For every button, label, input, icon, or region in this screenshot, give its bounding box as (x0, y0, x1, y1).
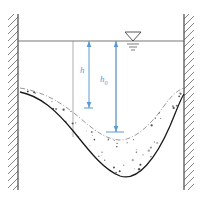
right-bank-wall (184, 14, 194, 190)
scour-cross-section-figure: h h0 (0, 0, 202, 202)
original-bed-profile (20, 88, 184, 140)
depth-dimension-h0 (106, 41, 124, 132)
sediment-stipple-region (18, 84, 188, 185)
diagram-canvas (0, 0, 202, 202)
datum-guide-lines (73, 41, 116, 137)
left-bank-wall (8, 14, 18, 190)
dimension-label-h: h (80, 66, 85, 75)
depth-dimension-h (84, 41, 93, 108)
scoured-bed-profile (20, 92, 184, 177)
dimension-label-h0: h0 (100, 75, 108, 86)
